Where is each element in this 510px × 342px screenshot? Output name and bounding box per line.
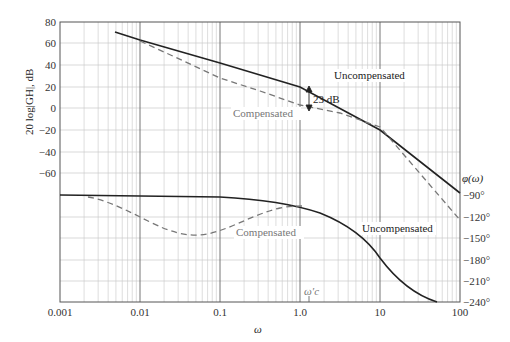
tick-neg150deg: −150° — [463, 232, 490, 244]
bode-plot: 80 60 40 20 0 −20 −40 −60 20 log|GH|, dB… — [0, 0, 510, 342]
phase-axis-ticks: −90° −120° −150° −180° −210° −240° — [463, 189, 490, 308]
tick-0.1: 0.1 — [213, 306, 227, 318]
tick-0.001: 0.001 — [48, 306, 73, 318]
tick-20: 20 — [45, 81, 57, 93]
tick-0: 0 — [51, 102, 57, 114]
gap-arrow — [306, 86, 312, 111]
uncompensated-magnitude-label: Uncompensated — [334, 69, 405, 81]
compensated-phase-label: Compensated — [236, 226, 296, 238]
frequency-axis-label: ω — [254, 323, 262, 335]
magnitude-axis-ticks: 80 60 40 20 0 −20 −40 −60 — [39, 16, 57, 179]
tick-0.01: 0.01 — [130, 306, 149, 318]
crossover-frequency-label: ω′c — [304, 285, 319, 297]
tick-40: 40 — [45, 59, 57, 71]
tick-neg20: −20 — [39, 124, 57, 136]
gap-label: 23 dB — [313, 93, 340, 105]
tick-1.0: 1.0 — [293, 306, 307, 318]
uncompensated-phase-curve — [60, 195, 437, 302]
tick-neg90deg: −90° — [463, 189, 485, 201]
tick-80: 80 — [45, 16, 57, 28]
compensated-magnitude-label: Compensated — [233, 107, 293, 119]
tick-neg60: −60 — [39, 167, 57, 179]
uncompensated-phase-label: Uncompensated — [362, 222, 433, 234]
frequency-axis-ticks: 0.001 0.01 0.1 1.0 10 100 — [48, 306, 469, 318]
tick-neg180deg: −180° — [463, 254, 490, 266]
phase-axis-label: φ(ω) — [462, 172, 484, 185]
tick-neg120deg: −120° — [463, 211, 490, 223]
tick-100: 100 — [452, 306, 469, 318]
tick-60: 60 — [45, 37, 57, 49]
magnitude-axis-label: 20 log|GH|, dB — [23, 69, 35, 135]
tick-neg210deg: −210° — [463, 275, 490, 287]
tick-10: 10 — [375, 306, 387, 318]
tick-neg40: −40 — [39, 146, 57, 158]
